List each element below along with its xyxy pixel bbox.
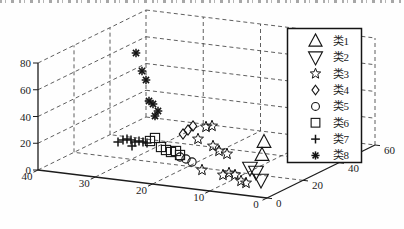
grid-z-left-wall — [38, 64, 146, 117]
series-类4 — [179, 121, 196, 139]
legend-label: 类8 — [333, 148, 350, 161]
y-tick-label: 0 — [276, 197, 282, 209]
z-tick-label: 20 — [20, 137, 32, 149]
legend-label: 类3 — [333, 67, 350, 80]
series-类1 — [255, 135, 271, 161]
triangle-down-marker — [254, 174, 269, 188]
z-tick-label: 80 — [20, 57, 32, 69]
scatter3d-figure: 4030201000204060020406080 类1类2类3类4类5类6类7… — [0, 0, 404, 229]
legend: 类1类2类3类4类5类6类7类8 — [288, 29, 362, 163]
z-tick-label: 60 — [20, 84, 32, 96]
x-tick-label: 20 — [136, 184, 148, 196]
y-tick-label: 60 — [384, 144, 396, 156]
y-tick-label: 40 — [348, 162, 360, 174]
triangle-up-marker — [257, 135, 271, 148]
x-tick-label: 30 — [79, 177, 91, 189]
legend-label: 类5 — [333, 99, 350, 112]
series-类3 — [193, 120, 252, 188]
z-tick-label: 0 — [26, 164, 32, 176]
x-tick-label: 10 — [193, 191, 205, 203]
grid-z-left-wall — [38, 10, 146, 63]
data-points — [113, 49, 271, 188]
star-marker — [197, 164, 208, 175]
grid-z-left-wall — [38, 90, 146, 143]
legend-label: 类2 — [333, 50, 350, 63]
y-tick-label: 20 — [312, 179, 324, 191]
star-marker — [193, 133, 204, 144]
grid-z-left-wall — [38, 37, 146, 90]
grid-x-floor — [95, 124, 203, 177]
legend-label: 类6 — [333, 116, 350, 129]
edge-floor-back-left — [38, 117, 146, 170]
x-tick-label: 0 — [253, 198, 259, 210]
series-类2 — [243, 162, 269, 188]
series-类6 — [145, 133, 184, 159]
legend-label: 类7 — [333, 132, 350, 145]
y-tick — [267, 198, 272, 199]
legend-label: 类4 — [333, 83, 350, 96]
grid-y-floor — [74, 152, 303, 180]
z-tick-label: 40 — [20, 111, 32, 123]
y-tick — [375, 145, 380, 146]
diamond-marker — [179, 129, 186, 139]
grid-x-floor — [153, 131, 261, 184]
legend-box — [288, 29, 362, 163]
y-tick — [303, 180, 308, 181]
plot-canvas: 4030201000204060020406080 类1类2类3类4类5类6类7… — [0, 0, 404, 229]
series-类8 — [132, 49, 163, 121]
legend-label: 类1 — [333, 34, 350, 47]
